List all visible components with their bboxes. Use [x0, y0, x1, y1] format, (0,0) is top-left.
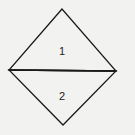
horizontal-divider	[9, 70, 116, 71]
diamond-diagram: 1 2	[0, 0, 135, 135]
region-label-1: 1	[59, 45, 65, 57]
upper-triangle	[9, 9, 116, 71]
region-label-2: 2	[59, 90, 65, 102]
diagram-canvas: 1 2	[0, 0, 135, 135]
